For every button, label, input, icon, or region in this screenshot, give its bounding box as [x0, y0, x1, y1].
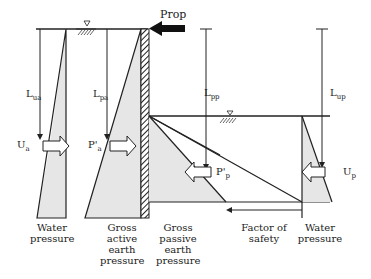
caption-water-pressure-left: Water pressure — [30, 222, 74, 244]
l-up-label: Lup — [330, 87, 346, 101]
p-a-label: P'a — [88, 139, 102, 153]
l-pa-label: Lpa — [93, 88, 108, 102]
water-table-icon-right — [220, 111, 236, 123]
sheet-pile-wall — [141, 29, 149, 218]
caption-gross-active: Gross active earth pressure — [100, 222, 144, 266]
p-p-label: P'p — [216, 166, 230, 180]
caption-gross-passive: Gross passive earth pressure — [156, 222, 200, 266]
caption-factor-of-safety: Factor of safety — [236, 222, 292, 244]
u-p-label: Up — [343, 166, 356, 180]
l-ua-label: Lua — [26, 88, 41, 102]
u-a-label: Ua — [17, 139, 30, 153]
l-pp-label: Lpp — [204, 87, 220, 101]
prop-label: Prop — [160, 8, 186, 21]
water-table-icon-left — [76, 21, 96, 35]
prop-arrow-icon — [149, 21, 185, 36]
caption-water-pressure-right: Water pressure — [296, 222, 344, 244]
gross-active-shape — [85, 29, 141, 218]
